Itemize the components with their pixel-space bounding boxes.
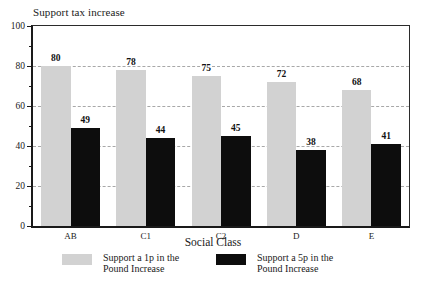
bar-D-series1: [296, 150, 326, 226]
y-axis-tick-label: 40: [16, 141, 26, 151]
legend-item-series1[interactable]: Support a 5p in thePound Increase: [216, 252, 333, 274]
x-axis-title: Social Class: [185, 236, 242, 248]
bar-value-label: 78: [126, 57, 136, 67]
y-axis-tick: [27, 26, 33, 27]
legend-label-series1: Support a 5p in thePound Increase: [257, 252, 333, 274]
y-axis-tick-label: 60: [16, 101, 26, 111]
bar-value-label: 75: [202, 63, 212, 73]
y-axis-tick-label: 100: [11, 21, 25, 31]
bar-C1-series0: [116, 70, 146, 226]
y-axis-tick: [27, 66, 33, 67]
bar-value-label: 45: [231, 123, 241, 133]
y-axis-tick-label: 80: [16, 61, 26, 71]
bar-E-series0: [342, 90, 372, 226]
legend-label-series0: Support a 1p in thePound Increase: [103, 252, 179, 274]
chart-title: Support tax increase: [33, 6, 125, 18]
x-axis-tick-label-E: E: [369, 231, 375, 241]
bar-value-label: 38: [306, 137, 316, 147]
y-axis-tick-label: 0: [20, 221, 25, 231]
y-axis-minor-tick: [29, 126, 33, 127]
y-axis-tick-label: 20: [16, 181, 26, 191]
bar-value-label: 80: [51, 53, 61, 63]
bar-value-label: 68: [352, 77, 362, 87]
bar-value-label: 44: [156, 125, 166, 135]
bar-value-label: 41: [381, 131, 391, 141]
x-axis-tick-label-D: D: [293, 231, 300, 241]
y-axis-minor-tick: [29, 86, 33, 87]
bar-C2-series1: [221, 136, 251, 226]
bar-AB-series0: [41, 66, 71, 226]
legend-item-series0[interactable]: Support a 1p in thePound Increase: [62, 252, 179, 274]
y-axis-minor-tick: [29, 206, 33, 207]
x-axis-tick-label-C1: C1: [141, 231, 152, 241]
gridline: [33, 66, 409, 67]
bar-AB-series1: [71, 128, 101, 226]
y-axis-tick: [27, 106, 33, 107]
bar-C2-series0: [192, 76, 222, 226]
y-axis-tick: [27, 146, 33, 147]
bar-E-series1: [371, 144, 401, 226]
legend-swatch-series1: [216, 254, 246, 265]
chart-figure: Support tax increase 0204060801008049784…: [0, 0, 427, 282]
bar-value-label: 49: [81, 115, 91, 125]
chart-legend: Support a 1p in thePound IncreaseSupport…: [0, 252, 427, 278]
bar-value-label: 72: [277, 69, 287, 79]
bar-D-series0: [267, 82, 297, 226]
y-axis-tick: [27, 186, 33, 187]
bar-C1-series1: [146, 138, 176, 226]
x-axis-tick-label-AB: AB: [64, 231, 77, 241]
y-axis-minor-tick: [29, 46, 33, 47]
x-axis-tick-label-C2: C2: [216, 231, 227, 241]
y-axis-minor-tick: [29, 166, 33, 167]
y-axis-tick: [27, 226, 33, 227]
legend-swatch-series0: [62, 254, 92, 265]
plot-frame: 02040608010080497844754572386841: [31, 25, 410, 228]
plot-area: 02040608010080497844754572386841: [33, 26, 409, 226]
